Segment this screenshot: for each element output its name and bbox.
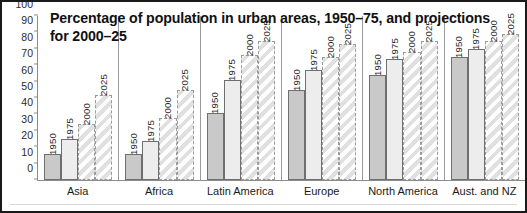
- bar-slot: 2025: [421, 16, 438, 180]
- bar-slot: 1975: [468, 16, 485, 180]
- x-axis-category-label: North America: [362, 182, 443, 202]
- bar: 2025: [258, 41, 275, 180]
- bar-group: 1950197520002025: [38, 16, 119, 180]
- bar-group: 1950197520002025: [201, 16, 282, 180]
- bar: 1975: [305, 70, 322, 180]
- plot-area: 1009080706050403020100 19501975200020251…: [37, 16, 525, 181]
- bar-group: 1950197520002025: [119, 16, 200, 180]
- bar: 2025: [502, 34, 519, 180]
- bar: 1950: [207, 113, 224, 180]
- x-axis-category-labels: AsiaAfricaLatin AmericaEuropeNorth Ameri…: [37, 182, 525, 202]
- bar-slot: 1950: [288, 16, 305, 180]
- bar-slot: 2000: [322, 16, 339, 180]
- bar: 1975: [468, 49, 485, 180]
- bar-slot: 2000: [78, 16, 95, 180]
- bar-group: 1950197520002025: [445, 16, 525, 180]
- bar: 1950: [369, 75, 386, 180]
- bar: 2025: [95, 95, 112, 180]
- x-axis-category-label: Europe: [281, 182, 362, 202]
- bar-slot: 2025: [177, 16, 194, 180]
- y-axis-tick-label: 30: [21, 113, 38, 125]
- bar: 1950: [288, 90, 305, 180]
- y-axis-tick-label: 20: [21, 129, 38, 141]
- y-axis-tick-label: 80: [21, 31, 38, 43]
- bar-slot: 1950: [451, 16, 468, 180]
- bar-slot: 1975: [142, 16, 159, 180]
- bar-groups: 1950197520002025195019752000202519501975…: [38, 16, 525, 180]
- bar-group-bars: 1950197520002025: [201, 16, 281, 180]
- x-axis-category-label: Aust. and NZ: [444, 182, 525, 202]
- bar-slot: 1950: [207, 16, 224, 180]
- bar-slot: 2000: [485, 16, 502, 180]
- bar: 1950: [44, 154, 61, 180]
- bar-group-bars: 1950197520002025: [119, 16, 199, 180]
- bar: 1975: [386, 59, 403, 180]
- y-axis-tick-label: 50: [21, 80, 38, 92]
- bar: 1950: [451, 57, 468, 180]
- bar: 2000: [78, 124, 95, 180]
- bar-group-bars: 1950197520002025: [363, 16, 443, 180]
- bar: 2025: [339, 44, 356, 180]
- bar-slot: 2025: [95, 16, 112, 180]
- bar-slot: 1950: [369, 16, 386, 180]
- bar: 2000: [159, 118, 176, 180]
- bar: 1950: [125, 154, 142, 180]
- bar-slot: 2025: [339, 16, 356, 180]
- x-axis-category-label: Asia: [37, 182, 118, 202]
- bar-slot: 1975: [224, 16, 241, 180]
- y-axis-tick-label: 40: [21, 96, 38, 108]
- bar: 2000: [485, 41, 502, 180]
- bar-group-bars: 1950197520002025: [282, 16, 362, 180]
- bar-slot: 2025: [258, 16, 275, 180]
- y-axis-tick-label: 0: [27, 162, 38, 174]
- bar-slot: 2000: [159, 16, 176, 180]
- bar-slot: 2000: [241, 16, 258, 180]
- x-axis-category-label: Africa: [118, 182, 199, 202]
- bar: 1975: [142, 141, 159, 180]
- y-axis-tick-label: 60: [21, 64, 38, 76]
- bar: 2025: [177, 90, 194, 180]
- bar: 1975: [61, 139, 78, 180]
- bar: 1975: [224, 80, 241, 180]
- y-axis-tick-label: 10: [21, 146, 38, 158]
- bar-slot: 1950: [44, 16, 61, 180]
- y-axis-tick-label: 90: [21, 14, 38, 26]
- bar: 2000: [403, 52, 420, 180]
- bar: 2025: [421, 41, 438, 180]
- bar: 2000: [241, 55, 258, 180]
- bar-slot: 2025: [502, 16, 519, 180]
- bar: 2000: [322, 57, 339, 180]
- bar-group: 1950197520002025: [363, 16, 444, 180]
- y-axis-tick-label: 100: [15, 0, 38, 10]
- bar-slot: 1950: [125, 16, 142, 180]
- bar-group-bars: 1950197520002025: [445, 16, 525, 180]
- y-axis-tick-label: 70: [21, 47, 38, 59]
- bar-slot: 1975: [61, 16, 78, 180]
- bar-group: 1950197520002025: [282, 16, 363, 180]
- bar-slot: 1975: [305, 16, 322, 180]
- bar-group-bars: 1950197520002025: [38, 16, 118, 180]
- x-axis-category-label: Latin America: [200, 182, 281, 202]
- bar-slot: 1975: [386, 16, 403, 180]
- bottom-divider: [10, 204, 517, 205]
- bar-slot: 2000: [403, 16, 420, 180]
- chart-figure: Percentage of population in urban areas,…: [0, 0, 527, 213]
